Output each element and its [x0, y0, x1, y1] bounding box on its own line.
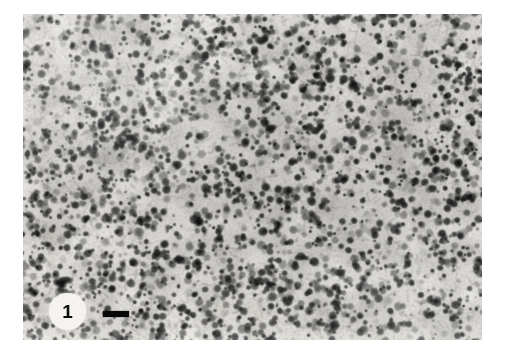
figure-plate: 1 — [0, 0, 507, 357]
micrograph-panel — [23, 14, 482, 340]
scale-bar — [103, 311, 129, 317]
micrograph-image — [23, 14, 482, 340]
panel-label-disc: 1 — [49, 293, 86, 330]
panel-label-number: 1 — [62, 302, 73, 321]
